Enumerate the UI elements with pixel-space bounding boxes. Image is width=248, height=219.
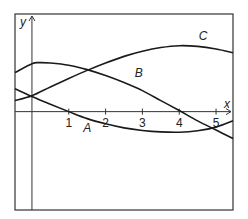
chart: 12345 ABC x y bbox=[0, 0, 248, 219]
x-tick-label-3: 3 bbox=[139, 116, 146, 130]
curve-a bbox=[15, 89, 233, 133]
curve-label-a: A bbox=[82, 121, 91, 135]
x-axis-label: x bbox=[223, 97, 231, 111]
y-axis-label: y bbox=[19, 15, 27, 29]
x-tick-label-1: 1 bbox=[65, 116, 72, 130]
x-tick-label-4: 4 bbox=[176, 116, 183, 130]
curves bbox=[15, 46, 233, 139]
curve-label-b: B bbox=[135, 66, 143, 80]
curve-c bbox=[15, 46, 233, 101]
curve-label-c: C bbox=[199, 29, 208, 43]
